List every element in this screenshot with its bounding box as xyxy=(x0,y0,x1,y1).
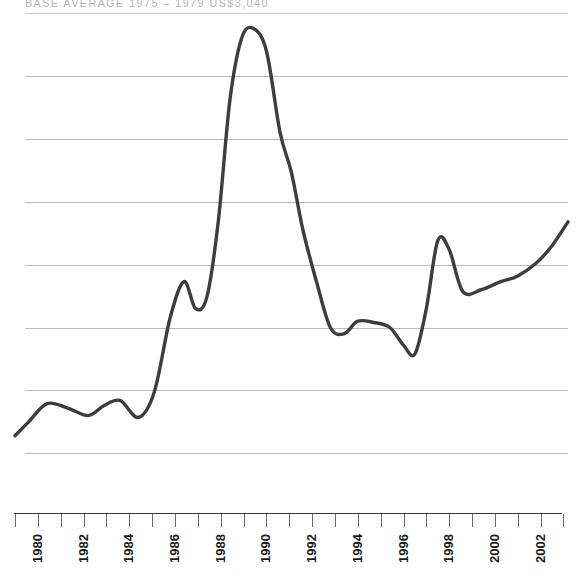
x-tick-2000 xyxy=(495,514,496,527)
x-axis-line xyxy=(14,513,562,514)
x-axis-label-1982: 1982 xyxy=(77,534,90,563)
series-line-group xyxy=(0,0,580,520)
x-axis-label-1992: 1992 xyxy=(305,534,318,563)
x-tick-1989 xyxy=(244,514,245,527)
x-axis-label-2002: 2002 xyxy=(534,534,547,563)
x-tick-1994 xyxy=(358,514,359,527)
x-tick-1999 xyxy=(472,514,473,527)
x-axis-label-1984: 1984 xyxy=(122,534,135,563)
x-tick-1998 xyxy=(449,514,450,527)
x-tick-1996 xyxy=(404,514,405,527)
x-axis-label-1988: 1988 xyxy=(214,534,227,563)
x-tick-1985 xyxy=(152,514,153,527)
x-axis-label-1998: 1998 xyxy=(442,534,455,563)
x-axis-label-2000: 2000 xyxy=(488,534,501,563)
x-tick-1988 xyxy=(221,514,222,527)
x-tick-1982 xyxy=(84,514,85,527)
plot-area xyxy=(0,0,580,579)
x-tick-1986 xyxy=(175,514,176,527)
series-line-index xyxy=(15,27,568,435)
x-tick-2001 xyxy=(518,514,519,527)
x-axis-label-1980: 1980 xyxy=(31,534,44,563)
x-tick-1979 xyxy=(15,514,16,527)
x-tick-1995 xyxy=(381,514,382,527)
x-axis-label-1986: 1986 xyxy=(168,534,181,563)
x-tick-1983 xyxy=(106,514,107,527)
x-tick-1987 xyxy=(198,514,199,527)
x-tick-2003 xyxy=(563,514,564,527)
x-tick-2002 xyxy=(541,514,542,527)
x-tick-1981 xyxy=(61,514,62,527)
x-tick-1990 xyxy=(266,514,267,527)
x-tick-1984 xyxy=(129,514,130,527)
x-tick-1997 xyxy=(426,514,427,527)
x-tick-1992 xyxy=(312,514,313,527)
x-tick-1991 xyxy=(289,514,290,527)
x-axis-label-1994: 1994 xyxy=(351,534,364,563)
x-axis-label-1990: 1990 xyxy=(259,534,272,563)
chart-canvas: BASE AVERAGE 1975 – 1979 US$3,040 198019… xyxy=(0,0,580,579)
x-tick-1993 xyxy=(335,514,336,527)
x-tick-1980 xyxy=(38,514,39,527)
x-axis-label-1996: 1996 xyxy=(397,534,410,563)
